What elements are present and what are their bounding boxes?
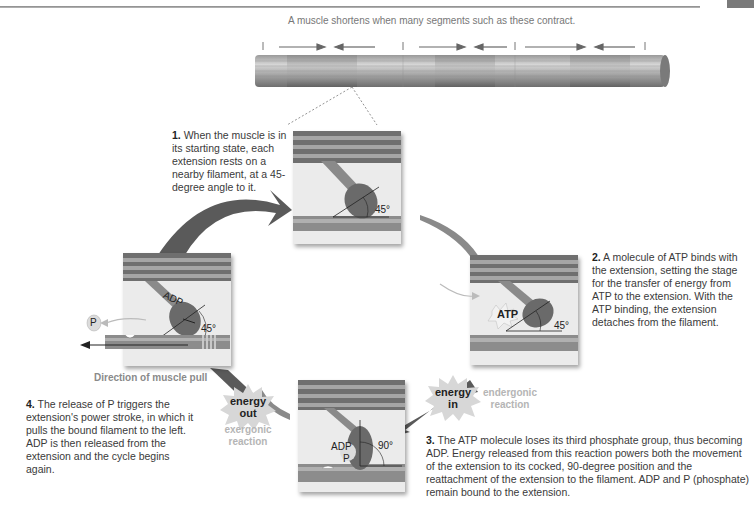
exergonic-label: exergonic reaction: [218, 424, 278, 448]
step-2-text: 2. A molecule of ATP binds with the exte…: [592, 251, 742, 329]
energy-out-label: energy out: [225, 395, 271, 419]
atp-label: ATP: [497, 308, 518, 320]
panel-atp-binding: ATP 45°: [470, 255, 578, 365]
endergonic-label: endergonic reaction: [480, 387, 540, 411]
step-4-text: 4. The release of P triggers the extensi…: [26, 398, 196, 476]
direction-label: Direction of muscle pull: [94, 372, 207, 383]
energy-in-label: energy in: [430, 386, 476, 410]
panel-starting-state: 45°: [293, 131, 401, 244]
angle-label-left: 45°: [201, 323, 216, 334]
angle-label-bottom: 90°: [378, 440, 393, 451]
adp-label-bottom: ADP: [331, 441, 352, 452]
panel-cocked-position: ADP P 90°: [298, 380, 405, 492]
atp-incoming-arrow: [440, 280, 480, 310]
phosphate-label-left: P: [90, 317, 97, 328]
filament-pull-arrow: [80, 335, 230, 355]
step-3-text: 3. The ATP molecule loses its third phos…: [426, 434, 751, 499]
step-1-text: 1. When the muscle is in its starting st…: [172, 129, 292, 194]
angle-label-right: 45°: [554, 320, 569, 331]
phosphate-label-bottom: P: [343, 453, 350, 464]
angle-label-top: 45°: [375, 204, 390, 215]
